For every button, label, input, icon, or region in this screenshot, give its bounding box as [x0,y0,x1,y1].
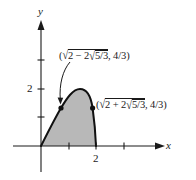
left-point-label: (√2 − 2√5/3, 4/3) [59,49,130,62]
left-point-sqrt: √2 − 2√5/3 [62,49,108,62]
left-point-radicand: 2 − 2√5/3 [68,49,108,62]
y-axis-arrowhead-icon [38,20,45,30]
right-point-sqrt: √2 + 2√5/3 [99,98,145,111]
left-point-leader-line [60,62,70,100]
right-point-inner-radicand: 5/3 [132,99,145,111]
x-tick-label-2: 2 [93,153,99,164]
left-point-label-tail: , 4/3) [108,50,130,61]
x-axis-label: x [166,140,171,151]
y-tick-label-2: 2 [27,83,33,94]
x-axis-arrowhead-icon [155,143,165,150]
right-point-radicand: 2 + 2√5/3 [105,98,145,111]
radical-sign-icon: √ [62,50,68,62]
inner-radical-sign-icon: √ [89,49,95,62]
left-point-sqrt-lead: 2 − 2 [68,50,89,61]
right-point-label-tail: , 4/3) [145,99,167,110]
left-point-inner-radicand: 5/3 [95,50,108,62]
left-point-marker [58,105,63,110]
right-point-sqrt-lead: 2 + 2 [105,99,126,110]
radical-sign-icon: √ [99,99,105,111]
right-point-marker [90,105,95,110]
right-point-label: (√2 + 2√5/3, 4/3) [96,98,167,111]
y-axis-label: y [38,6,43,17]
inner-radical-sign-icon: √ [126,98,132,111]
left-point-leader-arrowhead-icon [58,98,64,105]
